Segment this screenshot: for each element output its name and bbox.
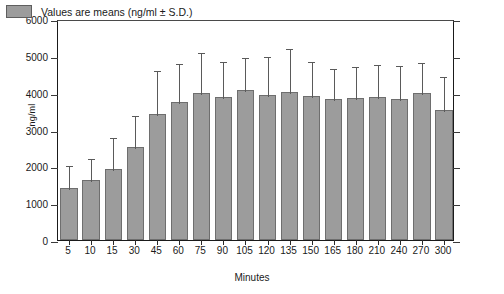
y-axis-tick-right <box>453 58 460 59</box>
y-axis-tick <box>51 205 58 206</box>
x-axis-tick-label: 30 <box>129 246 140 256</box>
y-axis-tick-right <box>453 168 460 169</box>
bar <box>281 92 298 240</box>
error-bar <box>334 69 335 101</box>
error-bar-cap <box>308 62 315 63</box>
x-axis-tick-label: 165 <box>324 246 341 256</box>
error-bar-cap <box>66 166 73 167</box>
bar <box>171 102 188 240</box>
legend-label: Values are means (ng/ml ± S.D.) <box>41 6 192 18</box>
error-bar <box>312 62 313 99</box>
error-bar <box>69 166 70 191</box>
bar <box>369 97 386 240</box>
error-bar-cap <box>286 49 293 50</box>
x-axis-tick-label: 135 <box>280 246 297 256</box>
y-axis-tick <box>51 168 58 169</box>
y-axis-tick-right <box>453 132 460 133</box>
y-axis-tick <box>51 132 58 133</box>
error-bar-cap <box>154 71 161 72</box>
error-bar <box>378 65 379 99</box>
x-axis-tick-label: 45 <box>151 246 162 256</box>
bar <box>105 169 122 240</box>
y-axis-tick-label: 0 <box>42 237 48 247</box>
y-axis-tick <box>51 95 58 96</box>
bar <box>127 147 144 240</box>
bar <box>60 188 77 240</box>
y-axis-tick <box>51 58 58 59</box>
bar <box>215 97 232 240</box>
legend: Values are means (ng/ml ± S.D.) <box>6 5 192 18</box>
error-bar-cap <box>396 66 403 67</box>
x-axis-tick-label: 240 <box>391 246 408 256</box>
x-axis-tick-label: 105 <box>236 246 253 256</box>
x-axis-title: Minutes <box>0 272 504 283</box>
x-axis-tick-label: 90 <box>217 246 228 256</box>
y-axis-tick-label: 3000 <box>26 127 48 137</box>
legend-swatch-icon <box>6 5 32 18</box>
y-axis-tick <box>51 242 58 243</box>
x-axis-tick-label: 300 <box>435 246 452 256</box>
x-axis-tick-label: 120 <box>258 246 275 256</box>
error-bar-cap <box>110 138 117 139</box>
error-bar <box>422 63 423 96</box>
bar <box>259 95 276 240</box>
x-axis-tick-label: 270 <box>413 246 430 256</box>
y-axis-tick-right <box>453 205 460 206</box>
bar <box>303 96 320 240</box>
error-bar-cap <box>374 65 381 66</box>
bar <box>325 99 342 240</box>
bar <box>82 180 99 240</box>
error-bar <box>135 116 136 149</box>
x-axis-tick-label: 60 <box>173 246 184 256</box>
x-axis-tick-label: 5 <box>65 246 71 256</box>
error-bar <box>245 58 246 92</box>
y-axis-tick <box>51 21 58 22</box>
bar <box>193 93 210 240</box>
bar <box>149 114 166 240</box>
bar-chart-figure: ng/ml 0100020003000400050006000 51015304… <box>0 0 504 294</box>
error-bar <box>113 138 114 171</box>
error-bar-cap <box>418 63 425 64</box>
y-axis-tick-label: 5000 <box>26 53 48 63</box>
plot-area: 0100020003000400050006000 <box>57 20 454 241</box>
error-bar <box>179 64 180 104</box>
x-axis-tick-label: 150 <box>302 246 319 256</box>
error-bar-cap <box>242 58 249 59</box>
bar <box>391 99 408 240</box>
error-bar <box>400 66 401 101</box>
error-bar <box>356 67 357 100</box>
error-bar-cap <box>198 53 205 54</box>
error-bar <box>444 77 445 112</box>
bar <box>435 110 452 240</box>
bar <box>413 93 430 240</box>
x-axis-tick-label: 10 <box>85 246 96 256</box>
error-bar <box>223 62 224 100</box>
error-bar-cap <box>88 159 95 160</box>
y-axis-tick-label: 1000 <box>26 200 48 210</box>
error-bar-cap <box>264 57 271 58</box>
error-bar-cap <box>440 77 447 78</box>
error-bar-cap <box>132 116 139 117</box>
x-axis-tick-label: 180 <box>346 246 363 256</box>
y-axis-tick-right <box>453 21 460 22</box>
y-axis-tick-label: 2000 <box>26 163 48 173</box>
error-bar <box>201 53 202 96</box>
error-bar <box>157 71 158 116</box>
error-bar-cap <box>176 64 183 65</box>
error-bar <box>268 57 269 98</box>
bar <box>347 98 364 240</box>
x-axis-tick-label: 15 <box>107 246 118 256</box>
error-bar-cap <box>352 67 359 68</box>
x-axis-tick-label: 210 <box>368 246 385 256</box>
bar <box>237 90 254 240</box>
error-bar <box>290 49 291 94</box>
y-axis-tick-right <box>453 95 460 96</box>
y-axis-tick-label: 4000 <box>26 90 48 100</box>
error-bar-cap <box>330 69 337 70</box>
x-axis-tick-label: 75 <box>195 246 206 256</box>
error-bar <box>91 159 92 182</box>
error-bar-cap <box>220 62 227 63</box>
y-axis-tick-right <box>453 242 460 243</box>
